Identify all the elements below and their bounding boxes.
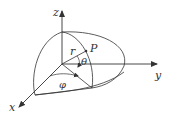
phi-label: φ <box>59 79 66 90</box>
x-axis-label: x <box>9 101 16 114</box>
equator-arc <box>35 72 124 95</box>
spherical-coordinates-diagram: z y x r P θ φ <box>0 0 174 117</box>
y-axis-label: y <box>154 69 162 82</box>
z-axis-label: z <box>52 6 59 19</box>
radius-label: r <box>70 45 76 58</box>
point-label: P <box>89 42 98 55</box>
x-axis <box>19 64 62 107</box>
meridian-arc <box>62 32 93 88</box>
theta-arc <box>77 56 79 67</box>
point-p-marker <box>85 50 88 53</box>
theta-label: θ <box>81 56 87 67</box>
phi-arc <box>50 74 78 76</box>
